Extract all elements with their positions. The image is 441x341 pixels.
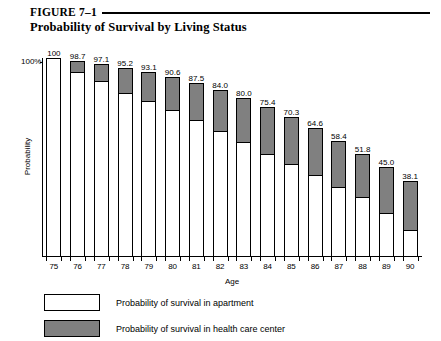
x-axis-tick	[236, 257, 237, 261]
x-axis-tick	[251, 257, 252, 261]
bar-value-label: 75.4	[260, 98, 276, 107]
legend-swatch-health-care-center-icon	[44, 320, 100, 337]
bar-slot: 75.4	[260, 107, 275, 257]
bar-slot: 98.7	[70, 61, 85, 257]
x-axis-title: Age	[42, 277, 422, 286]
bar-value-label: 80.0	[236, 89, 252, 98]
bar-age-83[interactable]: 80.0	[236, 98, 251, 257]
bar-slot: 95.2	[118, 68, 133, 257]
bar-slot: 51.8	[355, 154, 370, 257]
bar-value-label: 100	[47, 49, 60, 58]
bar-value-label: 97.1	[94, 55, 110, 64]
bar-age-81[interactable]: 87.5	[189, 83, 204, 257]
legend-swatch-apartment-icon	[44, 294, 100, 311]
x-axis-tick	[379, 257, 380, 261]
bar-age-76[interactable]: 98.7	[70, 61, 85, 257]
bar-segment-apartment	[166, 110, 179, 256]
legend-label-apartment: Probability of survival in apartment	[116, 298, 254, 308]
bar-segment-apartment	[190, 120, 203, 256]
bar-slot: 38.1	[403, 181, 418, 257]
x-axis-tick	[331, 257, 332, 261]
bar-segment-health-care-center	[142, 73, 155, 102]
bar-slot: 100	[46, 58, 61, 257]
bar-value-label: 90.6	[165, 68, 181, 77]
bar-value-label: 45.0	[379, 158, 395, 167]
x-axis-tick	[418, 257, 419, 261]
x-axis-tick	[370, 257, 371, 261]
legend-item-apartment: Probability of survival in apartment	[44, 294, 285, 311]
bar-age-85[interactable]: 70.3	[284, 117, 299, 257]
x-axis-tick	[156, 257, 157, 261]
x-axis-tick	[299, 257, 300, 261]
x-axis-tick	[228, 257, 229, 261]
x-axis-tick	[394, 257, 395, 261]
bar-value-label: 87.5	[189, 74, 205, 83]
chart-legend: Probability of survival in apartment Pro…	[44, 294, 285, 341]
x-axis-tick	[70, 257, 71, 261]
bar-slot: 70.3	[284, 117, 299, 257]
bar-segment-apartment	[71, 72, 84, 256]
x-axis-tick	[109, 257, 110, 261]
bar-value-label: 64.6	[307, 119, 323, 128]
bar-value-label: 95.2	[117, 59, 133, 68]
x-axis-tick	[284, 257, 285, 261]
bar-age-75[interactable]: 100	[46, 58, 61, 257]
bar-slot: 64.6	[308, 128, 323, 257]
legend-label-health-care-center: Probability of survival in health care c…	[116, 324, 285, 334]
bar-age-87[interactable]: 58.4	[331, 141, 346, 257]
x-axis-label-84: 84	[263, 262, 272, 271]
bar-segment-apartment	[214, 131, 227, 256]
x-axis-tick	[323, 257, 324, 261]
x-axis-tick	[118, 257, 119, 261]
x-axis-tick	[61, 257, 62, 261]
x-axis-label-83: 83	[239, 262, 248, 271]
bar-age-89[interactable]: 45.0	[379, 167, 394, 257]
bar-value-label: 98.7	[70, 52, 86, 61]
bar-segment-health-care-center	[404, 182, 417, 230]
x-axis: 75767778798081828384858687888990	[42, 257, 422, 279]
bar-age-79[interactable]: 93.1	[141, 72, 156, 257]
bar-segment-apartment	[47, 59, 60, 256]
bar-segment-apartment	[142, 101, 155, 256]
bar-slot: 87.5	[189, 83, 204, 257]
bar-value-label: 84.0	[212, 81, 228, 90]
y-axis-title: Probability	[23, 117, 32, 197]
bar-segment-apartment	[95, 81, 108, 256]
bar-age-82[interactable]: 84.0	[213, 90, 228, 257]
bar-segment-health-care-center	[261, 108, 274, 154]
bar-segment-health-care-center	[119, 69, 132, 93]
bar-age-88[interactable]: 51.8	[355, 154, 370, 257]
x-axis-tick	[355, 257, 356, 261]
bar-slot: 58.4	[331, 141, 346, 257]
bar-age-80[interactable]: 90.6	[165, 77, 180, 257]
bar-segment-apartment	[309, 175, 322, 256]
bar-age-86[interactable]: 64.6	[308, 128, 323, 257]
bar-segment-health-care-center	[285, 118, 298, 164]
bar-slot: 84.0	[213, 90, 228, 257]
x-axis-label-89: 89	[382, 262, 391, 271]
x-axis-label-82: 82	[216, 262, 225, 271]
bar-slot: 90.6	[165, 77, 180, 257]
y-axis-tick-label: 100%	[21, 57, 41, 66]
x-axis-tick	[189, 257, 190, 261]
bar-age-77[interactable]: 97.1	[94, 64, 109, 257]
bar-segment-health-care-center	[309, 129, 322, 174]
bar-segment-apartment	[332, 187, 345, 256]
bar-age-78[interactable]: 95.2	[118, 68, 133, 257]
x-axis-label-77: 77	[97, 262, 106, 271]
bar-value-label: 51.8	[355, 145, 371, 154]
x-axis-label-88: 88	[358, 262, 367, 271]
bar-segment-health-care-center	[166, 78, 179, 111]
bar-slot: 97.1	[94, 64, 109, 257]
bar-segment-health-care-center	[237, 99, 250, 142]
legend-item-health-care-center: Probability of survival in health care c…	[44, 320, 285, 337]
bar-segment-apartment	[261, 154, 274, 256]
bar-age-90[interactable]: 38.1	[403, 181, 418, 257]
bar-age-84[interactable]: 75.4	[260, 107, 275, 257]
bar-value-label: 70.3	[284, 108, 300, 117]
bar-segment-health-care-center	[214, 91, 227, 131]
x-axis-tick	[165, 257, 166, 261]
x-axis-tick	[46, 257, 47, 261]
bar-segment-apartment	[237, 142, 250, 256]
x-axis-label-76: 76	[73, 262, 82, 271]
